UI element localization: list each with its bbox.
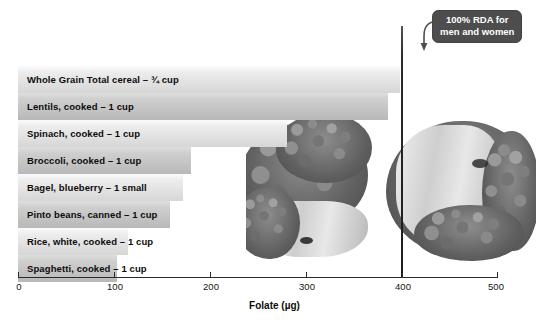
bar-label: Spinach, cooked – 1 cup: [27, 120, 140, 147]
rda-callout-box: 100% RDA for men and women: [432, 10, 522, 43]
x-axis-tick-label: 400: [395, 281, 411, 292]
x-axis-tick-label: 200: [203, 281, 219, 292]
bar-label: Whole Grain Total cereal – ¾ cup: [27, 66, 179, 93]
bar-label: Lentils, cooked – 1 cup: [27, 93, 134, 120]
rda-reference-line: [401, 26, 403, 277]
x-axis-start-cap: [18, 272, 19, 277]
x-axis-tick-label: 0: [16, 281, 21, 292]
x-axis-tick: [402, 272, 403, 277]
x-axis-tick-label: 300: [299, 281, 315, 292]
x-axis-title: Folate (µg): [0, 300, 549, 311]
x-axis-tick: [114, 272, 115, 277]
bar-label: Pinto beans, canned – 1 cup: [27, 201, 157, 228]
bar-label: Bagel, blueberry – 1 small: [27, 174, 147, 201]
rda-callout-line1: 100% RDA for: [440, 14, 514, 26]
x-axis-tick: [306, 272, 307, 277]
rda-callout-line2: men and women: [440, 26, 514, 38]
folate-bar-chart-figure: Whole Grain Total cereal – ¾ cup Lentils…: [0, 0, 549, 328]
bar-label: Rice, white, cooked – 1 cup: [27, 228, 153, 255]
x-axis-tick: [210, 272, 211, 277]
bar-label: Broccoli, cooked – 1 cup: [27, 147, 141, 174]
plot-area: Whole Grain Total cereal – ¾ cup Lentils…: [0, 0, 549, 328]
x-axis-tick-label: 100: [107, 281, 123, 292]
x-axis-end-cap: [497, 272, 498, 277]
x-axis-line: [18, 277, 498, 278]
x-axis-tick-label: 500: [488, 281, 504, 292]
